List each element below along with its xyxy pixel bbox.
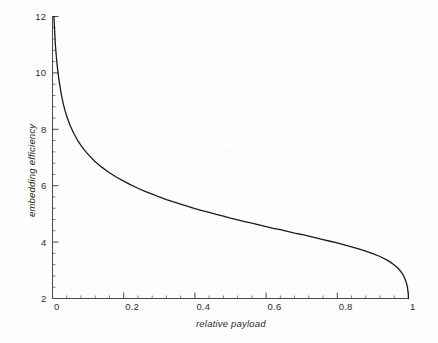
x-tick-label: 0.2 (125, 301, 139, 312)
x-tick-label: 1 (410, 301, 415, 312)
y-axis-title: embedding efficiency (26, 124, 37, 217)
axis-lines (52, 16, 409, 299)
y-tick-label: 12 (35, 11, 46, 22)
y-tick-label: 6 (41, 180, 46, 191)
x-axis-ticks (53, 293, 409, 299)
y-tick-label: 8 (41, 124, 46, 135)
y-tick-label: 10 (35, 67, 46, 78)
y-tick-label: 2 (41, 293, 46, 304)
x-tick-label: 0.8 (339, 301, 353, 312)
x-axis-title: relative payload (196, 318, 266, 329)
y-axis-ticks (53, 17, 59, 299)
plot-canvas (0, 0, 438, 343)
x-tick-label: 0.4 (196, 301, 210, 312)
x-tick-label: 0.6 (268, 301, 282, 312)
x-tick-label: 0 (54, 301, 59, 312)
data-series-line (54, 17, 409, 299)
chart-figure: 00.20.40.60.81 24681012 relative payload… (0, 0, 438, 343)
y-tick-label: 4 (41, 237, 46, 248)
